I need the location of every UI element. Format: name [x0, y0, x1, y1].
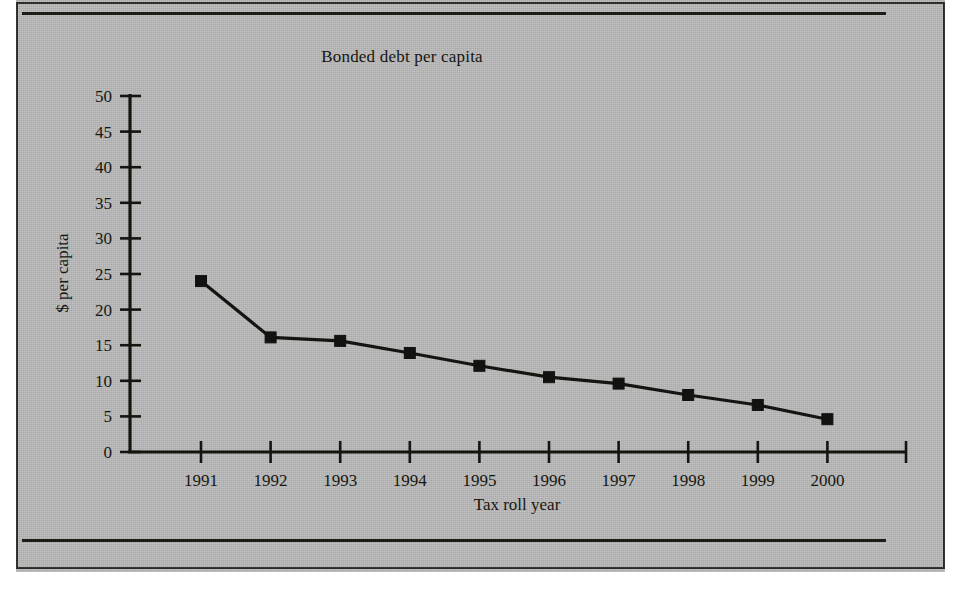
- y-tick-label: 30: [95, 229, 112, 248]
- data-point-marker: [822, 414, 833, 425]
- x-tick-label: 1995: [462, 471, 496, 490]
- x-axis-tick-labels: 1991199219931994199519961997199819992000: [184, 471, 844, 490]
- y-axis-title: $ per capita: [53, 233, 72, 313]
- data-point-marker: [613, 378, 624, 389]
- y-tick-label: 45: [95, 123, 112, 142]
- x-tick-label: 1999: [741, 471, 775, 490]
- x-tick-label: 1993: [323, 471, 357, 490]
- data-point-marker: [196, 276, 207, 287]
- y-tick-label: 5: [104, 407, 113, 426]
- y-tick-label: 35: [95, 194, 112, 213]
- y-axis-tick-labels: 05101520253035404550: [95, 87, 112, 462]
- horizontal-rule-top: [22, 12, 886, 15]
- x-axis-title: Tax roll year: [474, 495, 561, 514]
- data-point-marker: [683, 390, 694, 401]
- y-tick-label: 25: [95, 265, 112, 284]
- scanned-page: Bonded debt per capita 05101520253035404…: [0, 0, 959, 589]
- horizontal-rule-bottom: [22, 539, 886, 542]
- data-point-marker: [544, 372, 555, 383]
- x-tick-label: 1992: [254, 471, 288, 490]
- x-tick-label: 2000: [810, 471, 844, 490]
- x-tick-label: 1998: [671, 471, 705, 490]
- y-tick-label: 15: [95, 336, 112, 355]
- data-series-line: [201, 281, 827, 419]
- y-tick-label: 10: [95, 372, 112, 391]
- y-tick-label: 20: [95, 301, 112, 320]
- data-point-marker: [752, 400, 763, 411]
- data-point-marker: [265, 332, 276, 343]
- x-tick-label: 1997: [602, 471, 637, 490]
- x-tick-label: 1996: [532, 471, 566, 490]
- y-tick-label: 50: [95, 87, 112, 106]
- chart-figure: Bonded debt per capita 05101520253035404…: [22, 20, 922, 532]
- y-tick-label: 0: [104, 443, 113, 462]
- data-point-marker: [404, 348, 415, 359]
- y-tick-label: 40: [95, 158, 112, 177]
- x-tick-label: 1991: [184, 471, 218, 490]
- x-tick-label: 1994: [393, 471, 428, 490]
- line-chart-plot: 05101520253035404550 1991199219931994199…: [22, 20, 922, 532]
- data-point-marker: [335, 335, 346, 346]
- data-point-marker: [474, 360, 485, 371]
